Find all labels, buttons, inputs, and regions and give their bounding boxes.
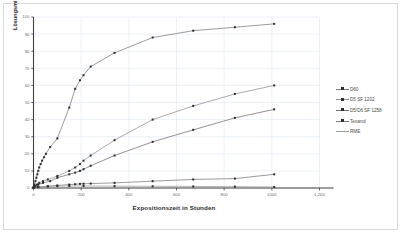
chart-legend: D60D5 SF 1202D5/D6 SF 1258TexanolRME bbox=[336, 84, 400, 137]
y-tick-label: 0 bbox=[16, 185, 30, 190]
legend-item[interactable]: Texanol bbox=[336, 116, 400, 127]
y-tick-label: 40 bbox=[16, 117, 30, 122]
y-tick-label: 60 bbox=[16, 83, 30, 88]
legend-point-icon bbox=[341, 87, 344, 90]
y-tick-label: 10 bbox=[16, 168, 30, 173]
legend-item[interactable]: D60 bbox=[336, 84, 400, 95]
x-tick-label: 800 bbox=[214, 192, 234, 197]
legend-label: D5/D6 SF 1258 bbox=[349, 108, 382, 113]
legend-marker-icon bbox=[336, 128, 349, 136]
line-chart: Lösungsmittel-Verlust in % 0102030405060… bbox=[0, 0, 407, 238]
legend-label: D5 SF 1202 bbox=[349, 97, 375, 102]
legend-item[interactable]: D5 SF 1202 bbox=[336, 95, 400, 106]
y-tick-label: 20 bbox=[16, 151, 30, 156]
legend-label: RME bbox=[349, 129, 360, 134]
x-tick-label: 600 bbox=[167, 192, 187, 197]
y-tick-label: 70 bbox=[16, 66, 30, 71]
x-tick-label: 0 bbox=[24, 192, 44, 197]
y-tick-label: 90 bbox=[16, 32, 30, 37]
legend-item[interactable]: RME bbox=[336, 126, 400, 137]
legend-marker-icon bbox=[336, 85, 349, 93]
legend-label: Texanol bbox=[349, 119, 366, 124]
series-markers bbox=[33, 23, 276, 189]
legend-point-icon bbox=[341, 108, 344, 111]
legend-marker-icon bbox=[336, 96, 349, 104]
gridlines bbox=[34, 17, 320, 188]
x-tick-label: 400 bbox=[119, 192, 139, 197]
legend-item[interactable]: D5/D6 SF 1258 bbox=[336, 105, 400, 116]
x-axis-title: Expositionszeit in Stunden bbox=[34, 204, 314, 211]
legend-point-icon bbox=[341, 98, 344, 101]
y-tick-label: 30 bbox=[16, 134, 30, 139]
legend-marker-icon bbox=[336, 106, 349, 114]
series-lines bbox=[34, 24, 275, 188]
legend-marker-icon bbox=[336, 117, 349, 125]
y-tick-label: 100 bbox=[16, 14, 30, 19]
tick-marks bbox=[31, 17, 319, 190]
legend-label: D60 bbox=[349, 87, 358, 92]
x-tick-label: 1,200 bbox=[310, 192, 330, 197]
y-tick-label: 80 bbox=[16, 49, 30, 54]
legend-point-icon bbox=[341, 119, 344, 122]
y-tick-label: 50 bbox=[16, 100, 30, 105]
x-tick-label: 200 bbox=[71, 192, 91, 197]
x-tick-label: 1000 bbox=[262, 192, 282, 197]
legend-line-icon bbox=[336, 131, 349, 132]
